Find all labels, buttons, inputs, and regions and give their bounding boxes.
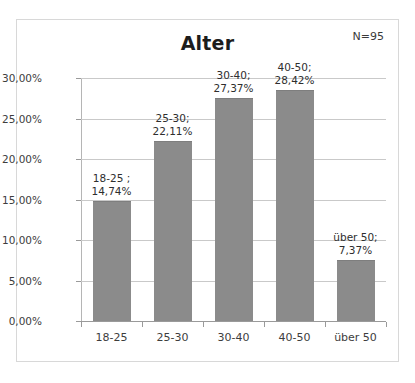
x-tick-mark [386,322,387,327]
bar-slot: 40-50;28,42% [264,78,325,321]
bar-data-label-value: 28,42% [274,74,314,87]
x-tick-mark [264,322,265,327]
bar[interactable] [215,98,253,321]
y-tick-label: 30,00% [0,72,42,84]
bar-data-label-value: 14,74% [91,185,131,198]
x-axis-category-label: 40-50 [279,331,311,344]
sample-size-annotation: N=95 [353,30,384,43]
bar[interactable] [154,141,192,321]
bar-data-label: 30-40;27,37% [213,69,253,95]
bar-slot: 18-25 ;14,74% [81,78,142,321]
y-tick-label: 15,00% [0,194,42,206]
bar-data-label-category: 25-30; [152,112,192,125]
bar-data-label-category: über 50; [333,231,377,244]
bar-data-label-value: 22,11% [152,125,192,138]
bar-data-label: 25-30;22,11% [152,112,192,138]
y-tick-label: 5,00% [0,275,42,287]
bar-slot: 25-30;22,11% [142,78,203,321]
bar[interactable] [337,260,375,321]
x-axis-category-label: 18-25 [96,331,128,344]
x-tick-mark [203,322,204,327]
bar-data-label-value: 7,37% [333,244,377,257]
bar[interactable] [93,201,131,321]
y-tick-label: 25,00% [0,113,42,125]
chart-title: Alter [17,32,398,54]
chart-container: Alter N=95 0,00%5,00%10,00%15,00%20,00%2… [16,19,399,362]
bar[interactable] [276,90,314,321]
x-axis-category-label: 30-40 [218,331,250,344]
y-tick-label: 0,00% [0,315,42,327]
x-tick-mark [81,322,82,327]
x-axis-category-label: über 50 [334,331,377,344]
bar-slot: 30-40;27,37% [203,78,264,321]
bar-data-label-category: 40-50; [274,61,314,74]
bar-data-label-category: 18-25 ; [91,172,131,185]
bar-data-label-value: 27,37% [213,82,253,95]
bar-data-label: 40-50;28,42% [274,61,314,87]
x-tick-mark [142,322,143,327]
y-tick-label: 10,00% [0,234,42,246]
x-tick-mark [325,322,326,327]
plot-area: 18-25 ;14,74%25-30;22,11%30-40;27,37%40-… [81,78,386,321]
gridline [81,321,386,322]
y-tick-label: 20,00% [0,153,42,165]
bar-slot: über 50;7,37% [325,78,386,321]
bar-data-label-category: 30-40; [213,69,253,82]
x-axis-category-label: 25-30 [157,331,189,344]
bar-data-label: 18-25 ;14,74% [91,172,131,198]
bar-data-label: über 50;7,37% [333,231,377,257]
